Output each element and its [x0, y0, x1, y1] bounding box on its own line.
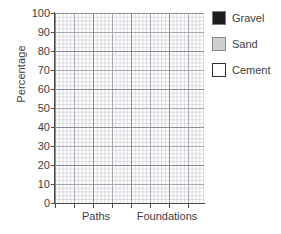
legend-item-gravel[interactable]: Gravel [212, 9, 281, 27]
y-tick-label-40: 40 [18, 122, 50, 133]
legend-swatch-sand-icon [212, 37, 226, 51]
x-tick-mark-6 [169, 204, 170, 208]
y-tick-label-100: 100 [18, 8, 50, 19]
y-tick-label-30: 30 [18, 141, 50, 152]
x-tick-mark-4 [131, 204, 132, 208]
y-tick-label-10: 10 [18, 179, 50, 190]
plot-area [55, 13, 204, 203]
y-tick-label-90: 90 [18, 27, 50, 38]
y-tick-label-20: 20 [18, 160, 50, 171]
y-axis-line [54, 12, 55, 204]
x-tick-mark-3 [112, 204, 113, 208]
y-tick-label-80: 80 [18, 46, 50, 57]
bar-chart-figure: Percentage 100 90 80 70 60 50 40 30 20 1… [0, 0, 281, 234]
y-tick-label-60: 60 [18, 84, 50, 95]
x-tick-mark-5 [150, 204, 151, 208]
x-axis-line [54, 203, 205, 204]
x-tick-mark-0 [55, 204, 56, 208]
legend-swatch-cement-icon [212, 63, 226, 77]
y-tick-label-50: 50 [18, 103, 50, 114]
legend-item-cement[interactable]: Cement [212, 61, 281, 79]
x-tick-label-foundations: Foundations [127, 209, 207, 223]
y-tick-label-70: 70 [18, 65, 50, 76]
x-tick-mark-7 [188, 204, 189, 208]
legend-swatch-gravel-icon [212, 11, 226, 25]
y-tick-label-0: 0 [18, 198, 50, 209]
legend-label-sand: Sand [232, 38, 258, 50]
x-tick-label-paths: Paths [61, 209, 131, 223]
y-axis-tick-labels: 100 90 80 70 60 50 40 30 20 10 0 [18, 8, 50, 204]
x-tick-mark-1 [74, 204, 75, 208]
legend-item-sand[interactable]: Sand [212, 35, 281, 53]
legend-label-cement: Cement [232, 64, 271, 76]
grid-block-lines [55, 13, 204, 203]
x-axis-tick-labels: Paths Foundations [55, 209, 205, 229]
legend-label-gravel: Gravel [232, 12, 264, 24]
x-tick-mark-2 [93, 204, 94, 208]
legend: Gravel Sand Cement [212, 9, 281, 87]
